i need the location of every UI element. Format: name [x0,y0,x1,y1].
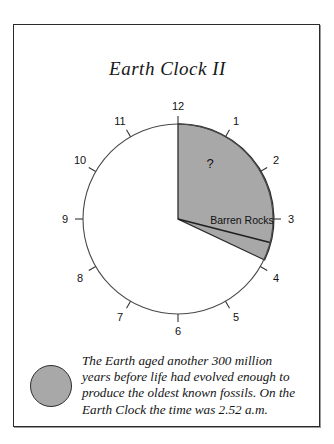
caption-line-2: years before life had evolved enough to [82,369,312,385]
sector-divider-line [178,219,270,243]
hour-label-1: 1 [233,115,239,127]
hour-label-5: 5 [233,311,239,323]
figure-frame: Earth Clock II [13,24,320,427]
clock-face-outline [83,124,273,314]
hour-label-10: 10 [74,154,86,166]
hour-label-7: 7 [117,311,123,323]
caption-line-1: The Earth aged another 300 million [82,353,312,369]
hour-label-8: 8 [77,272,83,284]
hour-label-6: 6 [175,325,181,337]
hour-label-3: 3 [288,213,294,225]
sector-unknown-label: ? [206,156,213,171]
hour-label-12: 12 [172,100,184,112]
caption-text: The Earth aged another 300 million years… [82,353,312,418]
caption-line-4: Earth Clock the time was 2.52 a.m. [82,402,312,418]
hour-label-11: 11 [114,115,125,127]
caption-line-3: produce the oldest known fossils. On the [82,385,312,401]
caption-block: The Earth aged another 300 million years… [14,347,321,428]
hour-ticks [75,116,281,322]
sector-unknown [178,124,274,260]
hour-numbers: 12 1 2 3 4 5 6 7 8 9 10 11 [62,100,294,337]
legend-swatch-circle [30,365,72,407]
page-title: Earth Clock II [14,58,321,80]
hour-label-2: 2 [273,154,279,166]
hour-label-9: 9 [62,213,68,225]
sector-barren-rocks-label: Barren Rocks [210,214,274,226]
hour-label-4: 4 [273,272,279,284]
